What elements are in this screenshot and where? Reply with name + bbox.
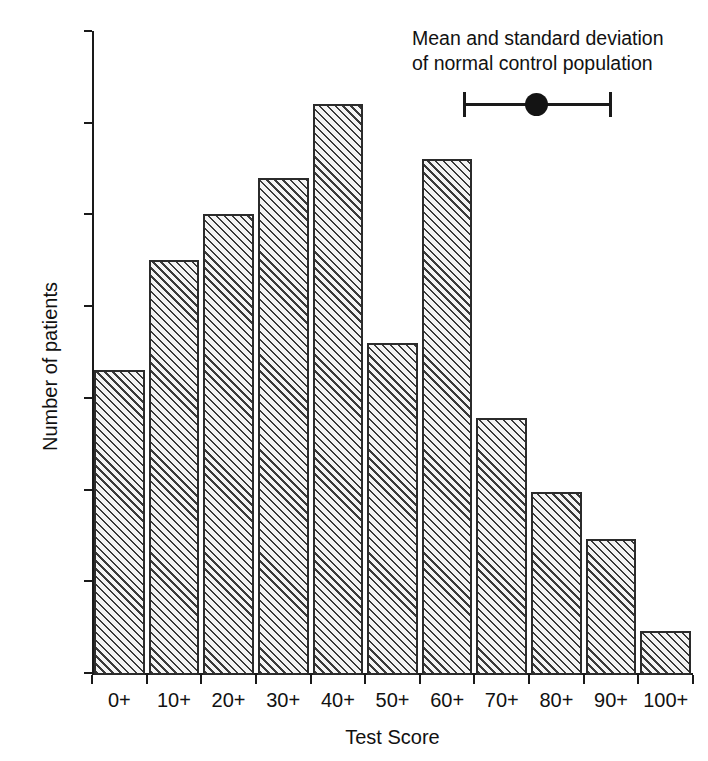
bar-20plus bbox=[203, 214, 254, 675]
x-axis-title: Test Score bbox=[92, 726, 693, 749]
bar-70plus bbox=[476, 418, 527, 675]
bar-30plus bbox=[258, 178, 309, 675]
annotation-line-2: of normal control population bbox=[412, 51, 702, 76]
bar-0plus bbox=[94, 370, 145, 675]
bar-50plus bbox=[367, 343, 418, 675]
bar-60plus bbox=[422, 159, 473, 675]
bar-80plus bbox=[531, 492, 582, 675]
control-population-annotation: Mean and standard deviation of normal co… bbox=[412, 26, 702, 75]
bar-10plus bbox=[149, 260, 200, 675]
bar-90plus bbox=[586, 539, 637, 675]
y-axis-title: Number of patients bbox=[39, 217, 62, 517]
histogram-figure: 010203040506070 0+10+20+30+40+50+60+70+8… bbox=[0, 0, 708, 761]
bar-100plus bbox=[640, 631, 691, 675]
bar-40plus bbox=[313, 104, 364, 675]
annotation-line-1: Mean and standard deviation bbox=[412, 26, 702, 51]
bar-series bbox=[0, 0, 708, 761]
